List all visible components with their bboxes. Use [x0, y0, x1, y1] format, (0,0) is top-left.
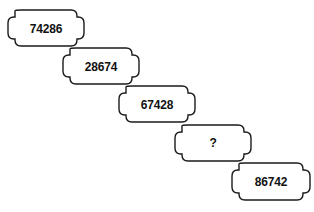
plaque-number-label: 67428 — [122, 86, 192, 122]
plaque-number-label: 28674 — [66, 48, 136, 84]
plaque-card: 67428 — [119, 86, 195, 122]
plaque-unknown-label: ? — [175, 125, 251, 161]
plaque-card: 86742 — [232, 163, 310, 200]
plaque-card: 74286 — [8, 10, 84, 46]
plaque-card[interactable]: ? — [175, 125, 251, 161]
puzzle-canvas: 742862867467428?86742 — [0, 0, 314, 212]
plaque-number-label: 86742 — [235, 163, 307, 200]
plaque-number-label: 74286 — [11, 10, 81, 46]
plaque-card: 28674 — [63, 48, 139, 84]
